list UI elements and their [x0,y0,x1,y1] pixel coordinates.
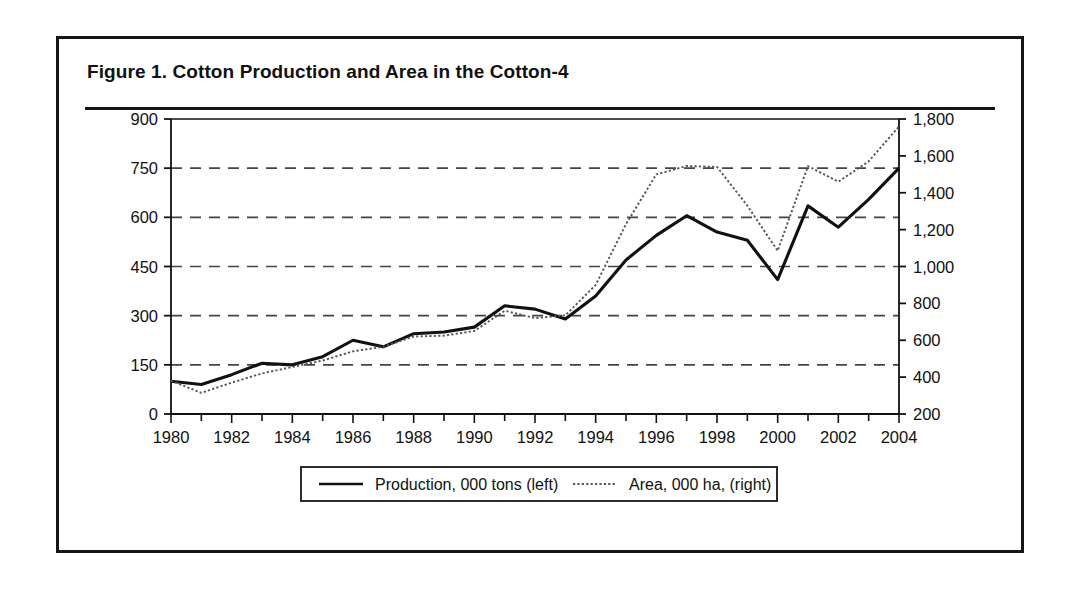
x-axis-tick-label: 1982 [213,428,250,446]
left-axis-tick-label: 0 [149,405,158,423]
right-axis-tick-label: 400 [913,368,941,386]
left-axis-tick-label: 600 [130,208,158,226]
chart-legend: Production, 000 tons (left)Area, 000 ha,… [301,467,777,501]
right-axis-tick-label: 600 [913,331,941,349]
x-axis-tick-label: 1996 [638,428,675,446]
right-axis-tick-label: 1,200 [913,221,954,239]
x-axis-tick-label: 1986 [335,428,372,446]
left-axis-tick-label: 900 [130,111,158,128]
right-axis-tick-label: 1,000 [913,258,954,276]
title-divider [85,107,995,110]
cotton-production-area-line-chart: 0150300450600750900 2004006008001,0001,2… [59,111,1021,551]
x-axis-tick-label: 1998 [699,428,736,446]
production-series-line [171,168,899,384]
x-axis-tick-label: 1988 [395,428,432,446]
x-axis-tick-label: 2004 [881,428,918,446]
left-axis-tick-label: 450 [130,258,158,276]
left-axis-tick-label: 750 [130,159,158,177]
legend-label-production: Production, 000 tons (left) [375,476,558,493]
left-axis-tick-label: 150 [130,356,158,374]
right-axis-tick-label: 1,400 [913,184,954,202]
x-axis-tick-label: 1994 [577,428,614,446]
gridlines-group [171,119,899,365]
x-axis-ticks-group [171,414,899,423]
right-axis-tick-label: 200 [913,405,941,423]
right-axis-tick-label: 1,600 [913,147,954,165]
right-axis-tick-label: 800 [913,294,941,312]
data-series-group [171,126,899,392]
x-axis-labels-group: 1980198219841986198819901992199419961998… [153,428,918,446]
legend-label-area: Area, 000 ha, (right) [629,476,771,493]
figure-container: Figure 1. Cotton Production and Area in … [56,36,1024,553]
figure-title: Figure 1. Cotton Production and Area in … [87,61,569,83]
area-series-line [171,126,899,392]
x-axis-tick-label: 1992 [517,428,554,446]
x-axis-tick-label: 1980 [153,428,190,446]
x-axis-tick-label: 1984 [274,428,311,446]
chart-canvas: 0150300450600750900 2004006008001,0001,2… [59,111,1021,551]
right-axis-ticks-group [899,119,906,414]
left-axis-ticks-group [164,119,171,414]
right-axis-tick-label: 1,800 [913,111,954,128]
left-axis-tick-label: 300 [130,307,158,325]
x-axis-tick-label: 1990 [456,428,493,446]
left-axis-labels-group: 0150300450600750900 [130,111,158,423]
x-axis-tick-label: 2002 [820,428,857,446]
x-axis-tick-label: 2000 [759,428,796,446]
right-axis-labels-group: 2004006008001,0001,2001,4001,6001,800 [913,111,954,423]
